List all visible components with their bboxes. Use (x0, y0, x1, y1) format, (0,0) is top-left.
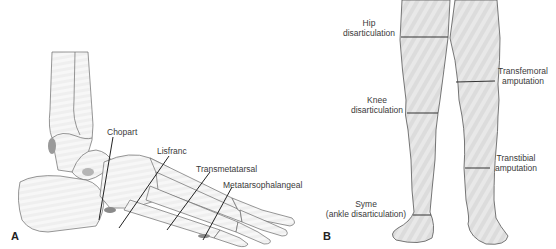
label-transtibial-line2: amputation (492, 163, 540, 173)
label-transtibial-amputation: Transtibial amputation (492, 153, 540, 173)
label-knee-disarticulation: Knee disarticulation (346, 95, 408, 115)
label-metatarsophalangeal: Metatarsophalangeal (223, 180, 302, 190)
label-transfemoral-amputation: Transfemoral amputation (497, 66, 549, 86)
label-transtibial-line1: Transtibial (492, 153, 540, 163)
label-transmetatarsal: Transmetatarsal (196, 164, 257, 174)
label-lisfranc: Lisfranc (157, 146, 187, 156)
label-hip-line2: disarticulation (338, 28, 400, 38)
label-transfemoral-line2: amputation (497, 76, 549, 86)
panel-label-a: A (11, 230, 19, 242)
label-syme-ankle-disarticulation: Syme (ankle disarticulation) (320, 199, 412, 219)
label-syme-line2: (ankle disarticulation) (320, 209, 412, 219)
panel-label-b: B (323, 230, 331, 242)
label-syme-line1: Syme (320, 199, 412, 209)
figure-canvas (0, 0, 556, 249)
label-hip-disarticulation: Hip disarticulation (338, 18, 400, 38)
label-chopart: Chopart (107, 127, 137, 137)
label-transfemoral-line1: Transfemoral (497, 66, 549, 76)
label-hip-line1: Hip (338, 18, 400, 28)
label-knee-line1: Knee (346, 95, 408, 105)
label-knee-line2: disarticulation (346, 105, 408, 115)
